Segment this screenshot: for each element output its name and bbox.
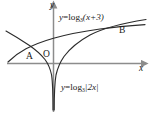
x-axis-label: x [139,64,143,74]
point-label-b: B [119,26,125,36]
point-label-a: A [26,52,33,62]
equation-label-log-x-plus-3: y=log3(x+3) [59,13,104,23]
equation-top-fn: log [68,12,80,22]
curve-log3-abs-2x-left [6,31,53,110]
math-figure: y=log3(x+3) y=log3|2x| A B O x y [0,0,152,119]
equation-top-argument: (x+3) [83,12,104,22]
equation-bottom-fn: log [70,82,82,92]
equation-bottom-argument: |2x| [85,82,99,92]
y-axis-label: y [50,1,54,11]
origin-label: O [43,50,50,60]
curve-log3-abs-2x-right [54,20,146,111]
equation-label-log-abs-2x: y=log3|2x| [61,83,99,93]
